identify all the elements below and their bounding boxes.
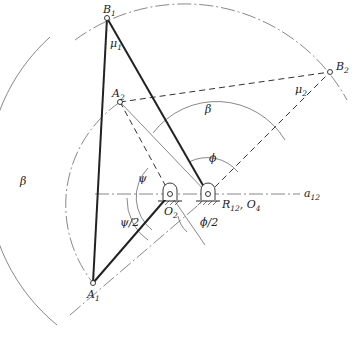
- arc-B-circle: [75, 4, 347, 100]
- label-phi: ϕ: [209, 152, 217, 165]
- label-R12-O4: R12, O4: [221, 198, 261, 213]
- label-beta-left: β: [19, 175, 26, 188]
- pin-A1: [91, 281, 96, 286]
- pin-B2: [328, 70, 333, 75]
- arc-phi-half: [178, 216, 187, 232]
- pin-B1: [105, 16, 110, 21]
- label-A2: A2: [111, 87, 125, 102]
- label-B1: B1: [102, 3, 116, 18]
- label-psi-half: ψ/2: [120, 216, 139, 229]
- label-phi-half: ϕ/2: [200, 216, 218, 229]
- linkage-diagram: B1 B2 A2 A1 O2 R12, O4 a12 μ1 μ2 β β ϕ ϕ…: [0, 0, 361, 350]
- arc-A-circle: [66, 102, 120, 283]
- crank-O2-A1: [93, 194, 170, 283]
- label-psi: ψ: [138, 172, 147, 185]
- rocker-O4-B2: [208, 72, 330, 194]
- label-B2: B2: [335, 60, 349, 75]
- label-a12: a12: [304, 187, 320, 202]
- label-beta-upper: β: [204, 103, 211, 116]
- coupler-A1-B1: [93, 18, 107, 283]
- label-A1: A1: [86, 288, 100, 303]
- arc-beta-left: [0, 37, 57, 325]
- label-O2: O2: [164, 205, 178, 220]
- label-mu2: μ2: [295, 83, 307, 98]
